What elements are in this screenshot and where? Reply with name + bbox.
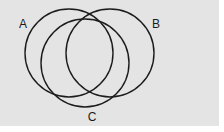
venn-diagram: A B C <box>0 0 224 132</box>
circle-b <box>66 9 154 97</box>
label-a: A <box>19 17 27 31</box>
label-b: B <box>152 17 160 31</box>
label-c: C <box>88 110 97 124</box>
